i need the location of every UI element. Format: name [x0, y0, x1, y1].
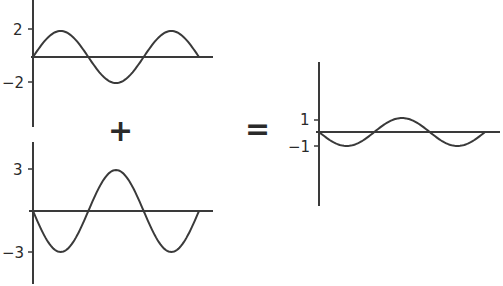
plot-wave-a: 2 −2	[2, 0, 213, 127]
wave-superposition-diagram: 2 −2 + 3 −3 = 1 −1	[0, 0, 503, 286]
plot-wave-sum: 1 −1	[288, 62, 500, 206]
equals-operator: =	[245, 111, 270, 146]
plus-operator: +	[108, 113, 133, 148]
tick-label-bottom: −1	[288, 138, 310, 156]
tick-label-top: 2	[13, 21, 23, 39]
tick-label-bottom: −3	[2, 244, 24, 262]
tick-label-bottom: −2	[2, 74, 24, 92]
plot-wave-b: 3 −3	[2, 142, 213, 284]
tick-label-top: 1	[300, 111, 310, 129]
tick-label-top: 3	[13, 161, 23, 179]
